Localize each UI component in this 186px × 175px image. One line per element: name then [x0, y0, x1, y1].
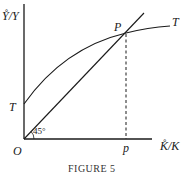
- curve-end-label-t: T: [172, 15, 180, 29]
- forty-five-degree-line: [24, 13, 144, 139]
- y-axis-label: Y̊/Y: [2, 9, 20, 23]
- intercept-label-t: T: [9, 100, 17, 114]
- foot-label-p: p: [122, 141, 129, 155]
- figure-caption: FIGURE 5: [68, 163, 116, 174]
- x-axis-label: K̊/K: [159, 139, 180, 153]
- origin-label: O: [13, 144, 22, 158]
- tt-curve: [24, 26, 170, 104]
- angle-label: 45°: [33, 126, 46, 136]
- intersection-label-p: P: [113, 20, 122, 34]
- figure-diagram: Y̊/Y K̊/K O T T P p 45° FIGURE 5: [0, 0, 186, 175]
